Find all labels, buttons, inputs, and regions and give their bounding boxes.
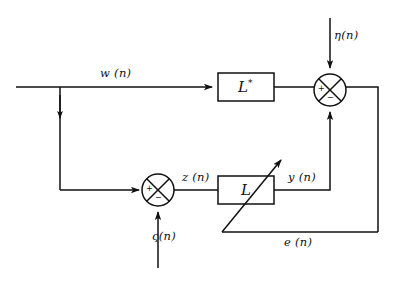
w-signal-label: w (n) bbox=[100, 66, 131, 80]
lower-filter-letter: L bbox=[241, 181, 251, 199]
block-diagram-svg bbox=[0, 0, 394, 282]
upper-summer-plus-sign: + bbox=[318, 85, 325, 93]
upper-filter-superscript: * bbox=[248, 78, 253, 88]
lower-filter-label: L bbox=[241, 181, 251, 199]
figure-canvas: L* L + − + − w (n) η(n) z (n) y (n) ς(n)… bbox=[0, 0, 394, 282]
z-signal-label: z (n) bbox=[182, 170, 210, 184]
lower-summer-plus-sign: + bbox=[146, 185, 153, 193]
e-signal-label: e (n) bbox=[284, 235, 312, 249]
zeta-signal-label: ς(n) bbox=[152, 229, 176, 243]
error-return-line bbox=[346, 87, 378, 232]
upper-filter-label: L* bbox=[238, 78, 252, 96]
adaptation-arrow bbox=[222, 160, 281, 232]
upper-summer-minus-sign: − bbox=[327, 94, 334, 102]
eta-signal-label: η(n) bbox=[334, 28, 358, 42]
lower-summer-minus-sign: − bbox=[155, 194, 162, 202]
y-signal-label: y (n) bbox=[288, 170, 316, 184]
upper-filter-letter: L bbox=[238, 78, 248, 96]
